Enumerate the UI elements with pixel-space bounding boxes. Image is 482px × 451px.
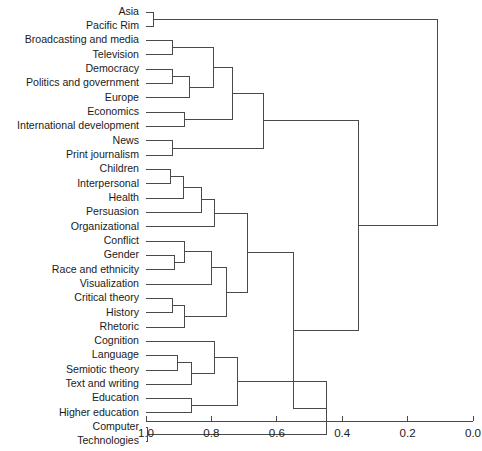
axis-line-with-ticks	[146, 416, 473, 421]
x-tick-label: 0.0	[465, 426, 481, 439]
leaf-label: Print journalism	[66, 148, 139, 160]
dendrogram-branch	[146, 12, 153, 26]
dendrogram-branch	[185, 67, 233, 119]
dendrogram-branch	[146, 170, 171, 184]
leaf-label: International development	[17, 119, 139, 131]
dendrogram-figure: AsiaPacific RimBroadcasting and mediaTel…	[0, 0, 482, 451]
leaf-label: Asia	[118, 5, 139, 17]
x-axis-tick-labels: 1.00.80.60.40.20.0	[138, 426, 481, 439]
leaf-label: Language	[92, 348, 139, 360]
x-tick-label: 1.0	[138, 426, 154, 439]
dendrogram-branch	[146, 76, 189, 97]
dendrogram-branch	[146, 241, 185, 262]
dendrogram-branch	[146, 141, 172, 155]
leaf-label: Semiotic theory	[66, 363, 140, 375]
dendrogram-branch	[146, 363, 191, 384]
leaf-label: Cognition	[94, 334, 139, 346]
x-tick-label: 0.4	[334, 426, 351, 439]
leaf-label: Democracy	[85, 62, 139, 74]
leaf-label: Gender	[104, 248, 140, 260]
leaf-label: News	[113, 134, 140, 146]
dendrogram-plot: AsiaPacific RimBroadcasting and mediaTel…	[0, 0, 482, 451]
dendrogram-branch	[146, 255, 175, 269]
leaf-label: Pacific Rim	[86, 19, 139, 31]
dendrogram-branch	[146, 341, 215, 373]
leaf-label-group: AsiaPacific RimBroadcasting and mediaTel…	[17, 5, 140, 447]
leaf-label: Conflict	[104, 234, 139, 246]
dendrogram-branch	[153, 19, 437, 225]
leaf-label: Organizational	[71, 220, 139, 232]
leaf-label: Persuasion	[86, 205, 139, 217]
x-tick-label: 0.6	[269, 426, 285, 439]
leaf-label: Text and writing	[65, 377, 139, 389]
leaf-label: Europe	[105, 91, 139, 103]
dendrogram-branch	[146, 306, 185, 327]
dendrogram-branch	[146, 356, 177, 370]
leaf-label: Economics	[87, 105, 139, 117]
dendrogram-branch	[172, 48, 213, 87]
leaf-label: Visualization	[80, 277, 139, 289]
dendrogram-branch	[172, 93, 264, 148]
leaf-label: Higher education	[59, 406, 139, 418]
leaf-label: Race and ethnicity	[52, 263, 140, 275]
dendrogram-branch	[146, 298, 172, 312]
dendrogram-branch	[264, 121, 359, 331]
leaf-label: Computer	[92, 420, 139, 432]
leaf-label: Television	[92, 48, 139, 60]
leaf-label: Technologies	[77, 434, 139, 446]
x-tick-label: 0.8	[203, 426, 219, 439]
dendrogram-branch	[146, 200, 215, 227]
dendrogram-branch	[146, 399, 191, 413]
leaf-label: Interpersonal	[77, 177, 139, 189]
dendrogram-branch	[146, 41, 172, 55]
leaf-label: History	[106, 306, 140, 318]
dendrogram-branch	[185, 268, 227, 316]
dendrogram-branch	[146, 177, 184, 198]
leaf-label: Education	[92, 391, 139, 403]
dendrogram-branch	[215, 213, 248, 292]
dendrogram-branches	[146, 12, 437, 442]
leaf-label: Children	[100, 162, 140, 174]
leaf-label: Rhetoric	[100, 320, 140, 332]
x-axis	[146, 416, 473, 421]
x-tick-label: 0.2	[400, 426, 416, 439]
leaf-label: Critical theory	[74, 291, 139, 303]
leaf-label: Politics and government	[26, 76, 139, 88]
leaf-label: Health	[108, 191, 139, 203]
dendrogram-branch	[146, 69, 172, 83]
dendrogram-branch	[146, 252, 211, 284]
dendrogram-branch	[146, 187, 202, 212]
dendrogram-branch	[146, 112, 185, 126]
leaf-label: Broadcasting and media	[25, 33, 139, 45]
